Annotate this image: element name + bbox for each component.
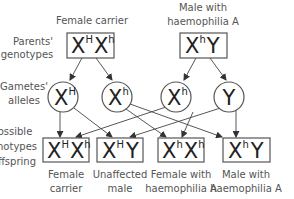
offspring-label-line2: male bbox=[108, 183, 133, 194]
parent-label: Female carrier bbox=[56, 15, 129, 26]
row-label-parents-line1: Parents' bbox=[13, 36, 53, 47]
offspring-female-haemophilia: XhXh Female with haemophilia A bbox=[145, 138, 217, 194]
gamete-Xh-father: Xh bbox=[161, 82, 191, 112]
svg-text:Y: Y bbox=[222, 86, 236, 110]
gamete-Y: Y bbox=[214, 82, 244, 112]
haemophilia-inheritance-diagram: Parents' genotypes Gametes' alleles ossi… bbox=[0, 0, 294, 199]
offspring-unaffected-male: XHY Unaffected male bbox=[93, 138, 148, 194]
parent-label-line2: haemophilia A bbox=[167, 16, 239, 27]
gamete-XH: XH bbox=[48, 82, 78, 112]
svg-text:XhXh: XhXh bbox=[162, 139, 204, 163]
offspring-label-line1: Unaffected bbox=[93, 169, 148, 180]
arrow-parent-to-gamete bbox=[70, 58, 82, 80]
row-label-parents-line2: genotypes bbox=[1, 49, 54, 60]
offspring-label-line2: carrier bbox=[50, 183, 84, 194]
row-label-parents: Parents' genotypes bbox=[1, 36, 54, 60]
arrow-parent-to-gamete bbox=[210, 58, 226, 80]
parent-female-carrier: Female carrier XHXh bbox=[56, 15, 129, 58]
offspring-label-line2: haemophilia A bbox=[145, 183, 217, 194]
row-label-offspring: ossible hotypes ffspring bbox=[0, 126, 37, 167]
offspring-female-carrier: XHXh Female carrier bbox=[43, 138, 91, 194]
offspring-label-line1: Female bbox=[48, 169, 84, 180]
arrow-gamete-to-offspring bbox=[74, 108, 112, 137]
arrow-parent-to-gamete bbox=[184, 58, 196, 80]
offspring-label-line2: haemophilia A bbox=[210, 183, 282, 194]
offspring-label-line1: Female with bbox=[151, 169, 212, 180]
row-label-gametes-line2: alleles bbox=[8, 95, 40, 106]
row-label-offspring-line3: ffspring bbox=[0, 156, 36, 167]
parent-label-line1: Male with bbox=[179, 2, 227, 13]
offspring-male-haemophilia: XhY Male with haemophilia A bbox=[210, 138, 282, 194]
arrow-parent-to-gamete bbox=[96, 58, 112, 80]
gamete-Xh-mother: Xh bbox=[102, 82, 132, 112]
row-label-offspring-line2: hotypes bbox=[0, 141, 37, 152]
row-label-offspring-line1: ossible bbox=[0, 126, 32, 137]
arrow-gamete-to-offspring bbox=[182, 112, 193, 137]
row-label-gametes: Gametes' alleles bbox=[0, 81, 48, 106]
parent-male-haemophilia: Male with haemophilia A XhY bbox=[167, 2, 239, 58]
offspring-label-line1: Male with bbox=[222, 169, 270, 180]
row-label-gametes-line1: Gametes' bbox=[0, 81, 48, 92]
